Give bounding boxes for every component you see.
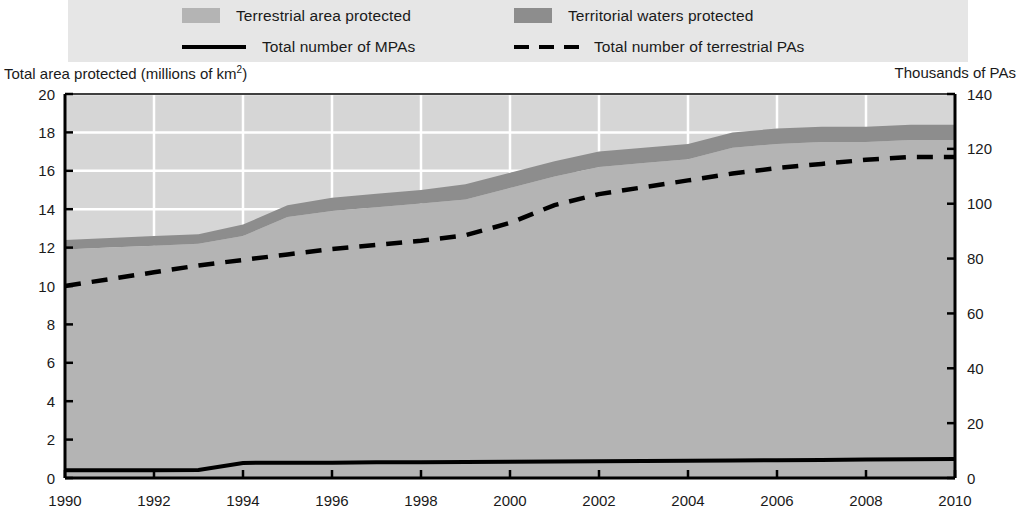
legend-row-lines: Total number of MPAs Total number of ter… — [68, 31, 968, 62]
legend-entry-terrestrial-area: Terrestrial area protected — [182, 0, 411, 31]
chart-legend: Terrestrial area protected Territorial w… — [68, 0, 968, 62]
legend-swatch-terrestrial-area — [182, 8, 220, 23]
y-tick-label-right: 120 — [967, 140, 992, 157]
y-tick-label-left: 10 — [38, 278, 55, 295]
y-tick-label-left: 14 — [38, 201, 55, 218]
legend-label-terrestrial-area: Terrestrial area protected — [236, 7, 411, 25]
x-tick-label: 2004 — [671, 492, 704, 509]
y-tick-label-right: 60 — [967, 305, 984, 322]
y-tick-label-left: 8 — [47, 316, 55, 333]
legend-label-total-terrestrial-pas: Total number of terrestrial PAs — [594, 38, 804, 56]
y-tick-label-right: 100 — [967, 195, 992, 212]
legend-label-territorial-waters: Territorial waters protected — [568, 7, 753, 25]
x-tick-label: 1998 — [404, 492, 437, 509]
y-tick-label-left: 6 — [47, 354, 55, 371]
x-tick-label: 2008 — [849, 492, 882, 509]
x-tick-label: 1992 — [137, 492, 170, 509]
legend-entry-total-mpas: Total number of MPAs — [182, 31, 415, 62]
y-tick-label-left: 0 — [47, 470, 55, 487]
legend-label-total-mpas: Total number of MPAs — [262, 38, 415, 56]
legend-entry-total-terrestrial-pas: Total number of terrestrial PAs — [514, 31, 804, 62]
left-axis-caption: Total area protected (millions of km2) — [4, 64, 247, 82]
y-tick-label-left: 16 — [38, 162, 55, 179]
left-axis-caption-close: ) — [242, 65, 247, 82]
x-tick-label: 1994 — [226, 492, 259, 509]
legend-line-dashed-icon — [514, 40, 578, 54]
y-tick-label-left: 4 — [47, 393, 55, 410]
x-tick-label: 1996 — [315, 492, 348, 509]
y-tick-label-right: 20 — [967, 415, 984, 432]
chart-svg: 0246810121416182002040608010012014019901… — [0, 86, 1020, 531]
y-tick-label-right: 40 — [967, 360, 984, 377]
chart-plot-area: 0246810121416182002040608010012014019901… — [0, 86, 1020, 531]
legend-entry-territorial-waters: Territorial waters protected — [514, 0, 753, 31]
left-axis-caption-text: Total area protected (millions of km — [4, 65, 237, 82]
y-tick-label-left: 20 — [38, 86, 55, 103]
legend-line-solid-icon — [182, 40, 246, 54]
x-tick-label: 2010 — [938, 492, 971, 509]
y-tick-label-left: 2 — [47, 431, 55, 448]
y-tick-label-left: 18 — [38, 124, 55, 141]
y-tick-label-left: 12 — [38, 239, 55, 256]
y-tick-label-right: 80 — [967, 250, 984, 267]
legend-swatch-territorial-waters — [514, 8, 552, 23]
x-tick-label: 1990 — [48, 492, 81, 509]
legend-row-areas: Terrestrial area protected Territorial w… — [68, 0, 968, 31]
x-tick-label: 2002 — [582, 492, 615, 509]
x-tick-label: 2000 — [493, 492, 526, 509]
y-tick-label-right: 0 — [967, 470, 975, 487]
right-axis-caption: Thousands of PAs — [895, 64, 1016, 81]
x-tick-label: 2006 — [760, 492, 793, 509]
y-tick-label-right: 140 — [967, 86, 992, 103]
